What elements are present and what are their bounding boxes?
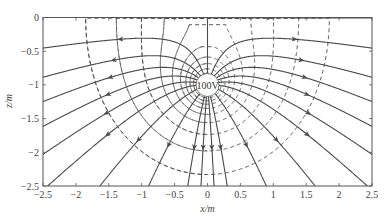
x-tick-label: 1.5 [300,189,313,200]
field-line [218,89,318,189]
axis-ticks: −2.5−2−1.5−1−0.500.511.522.50−0.5−1−1.5−… [21,12,378,200]
field-line [215,93,268,189]
field-line [40,67,199,103]
field-plot: −2.5−2−1.5−1−0.500.511.522.50−0.5−1−1.5−… [0,0,389,221]
y-tick-label: −0.5 [21,46,39,57]
field-line [97,89,197,189]
y-tick-label: −1 [28,79,39,90]
x-tick-label: 0.5 [234,189,247,200]
y-tick-label: −1.5 [21,113,39,124]
x-tick-label: 2 [337,189,342,200]
field-line [44,85,197,189]
x-tick-label: −2 [71,189,82,200]
field-line [147,93,200,189]
charge-label: 100V [196,80,219,91]
y-tick-label: −2.5 [21,181,39,192]
x-tick-label: 0 [205,189,210,200]
field-line [216,67,375,103]
x-tick-label: −0.5 [166,189,184,200]
y-tick-label: 0 [34,12,39,23]
y-tick-label: −2 [28,147,39,158]
x-tick-label: 1 [271,189,276,200]
field-line [219,85,372,189]
x-tick-label: −1.5 [100,189,118,200]
charge: 100V [196,74,219,97]
x-axis-label: x/m [199,203,214,214]
y-axis-label: z/m [3,94,14,109]
x-tick-label: −1 [136,189,147,200]
x-tick-label: 2.5 [366,189,379,200]
